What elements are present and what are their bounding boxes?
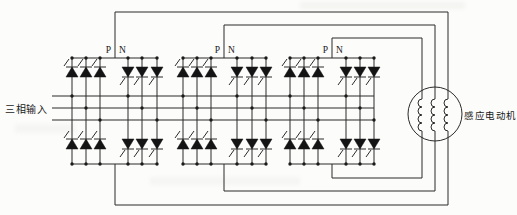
thyristor-icon: [78, 59, 92, 77]
thyristor-icon: [229, 67, 243, 85]
junction-dot: [264, 56, 267, 59]
junction-dot: [140, 162, 143, 165]
junction-dot: [84, 106, 87, 109]
gate-lead: [310, 59, 315, 66]
gate-lead: [78, 131, 83, 138]
junction-dot: [126, 56, 129, 59]
gate-lead: [258, 150, 263, 157]
junction-dot: [235, 162, 238, 165]
gate-lead: [296, 59, 301, 66]
gate-lead: [282, 131, 287, 138]
junction-dot: [316, 56, 319, 59]
gate-lead: [244, 78, 249, 85]
three-phase-input-label: 三相输入: [5, 101, 47, 116]
thyristor-icon: [149, 139, 163, 157]
thyristor-icon: [134, 139, 148, 157]
gate-lead: [258, 78, 263, 85]
gate-lead: [134, 78, 139, 85]
junction-dot: [288, 94, 291, 97]
gate-lead: [189, 59, 194, 66]
thyristor-icon: [134, 67, 148, 85]
n-label: N: [119, 45, 126, 55]
gate-lead: [203, 59, 208, 66]
junction-dot: [250, 56, 253, 59]
n-label: N: [336, 45, 343, 55]
thyristor-icon: [296, 131, 310, 149]
gate-lead: [296, 131, 301, 138]
gate-lead: [64, 59, 69, 66]
gate-lead: [203, 131, 208, 138]
gate-lead: [78, 59, 83, 66]
induction-motor-label: 感应电动机: [464, 108, 517, 122]
p-label: P: [323, 45, 328, 55]
junction-dot: [288, 162, 291, 165]
junction-dot: [358, 106, 361, 109]
junction-dot: [155, 118, 158, 121]
junction-dot: [98, 118, 101, 121]
gate-lead: [366, 150, 371, 157]
gate-lead: [229, 78, 234, 85]
thyristor-icon: [352, 139, 366, 157]
junction-dot: [288, 56, 291, 59]
junction-dot: [209, 162, 212, 165]
gate-lead: [64, 131, 69, 138]
gate-lead: [244, 150, 249, 157]
junction-dot: [250, 162, 253, 165]
junction-dot: [84, 162, 87, 165]
junction-dot: [155, 162, 158, 165]
junction-dot: [235, 56, 238, 59]
gate-lead: [338, 150, 343, 157]
thyristor-icon: [175, 131, 189, 149]
output-rail-bottom: [115, 131, 448, 205]
thyristor-icon: [203, 131, 217, 149]
thyristor-icon: [310, 59, 324, 77]
thyristor-icon: [189, 131, 203, 149]
junction-dot: [209, 118, 212, 121]
gate-lead: [175, 59, 180, 66]
gate-lead: [310, 131, 315, 138]
thyristor-icon: [92, 59, 106, 77]
gate-lead: [229, 150, 234, 157]
junction-dot: [344, 162, 347, 165]
junction-dot: [98, 56, 101, 59]
junction-dot: [209, 56, 212, 59]
thyristor-icon: [189, 59, 203, 77]
motor-winding-coil: [431, 99, 435, 131]
junction-dot: [358, 162, 361, 165]
junction-dot: [181, 94, 184, 97]
thyristor-icon: [64, 59, 78, 77]
thyristor-icon: [282, 59, 296, 77]
thyristor-icon: [120, 139, 134, 157]
thyristor-icon: [258, 139, 272, 157]
gate-lead: [149, 78, 154, 85]
junction-dot: [70, 162, 73, 165]
junction-dot: [372, 162, 375, 165]
thyristor-icon: [310, 131, 324, 149]
gate-lead: [366, 78, 371, 85]
thyristor-icon: [258, 67, 272, 85]
thyristor-icon: [244, 67, 258, 85]
thyristor-icon: [352, 67, 366, 85]
p-label: P: [106, 45, 111, 55]
gate-lead: [338, 78, 343, 85]
gate-lead: [92, 59, 97, 66]
junction-dot: [98, 162, 101, 165]
junction-dot: [126, 94, 129, 97]
junction-dot: [181, 56, 184, 59]
junction-dot: [316, 162, 319, 165]
thyristor-icon: [338, 67, 352, 85]
thyristor-icon: [366, 139, 380, 157]
thyristor-icon: [64, 131, 78, 149]
gate-lead: [352, 150, 357, 157]
thyristor-icon: [149, 67, 163, 85]
gate-lead: [92, 131, 97, 138]
p-label: P: [215, 45, 220, 55]
output-rail-top: [224, 25, 435, 99]
gate-lead: [120, 150, 125, 157]
thyristor-icon: [175, 59, 189, 77]
junction-dot: [70, 94, 73, 97]
gate-lead: [282, 59, 287, 66]
junction-dot: [372, 118, 375, 121]
